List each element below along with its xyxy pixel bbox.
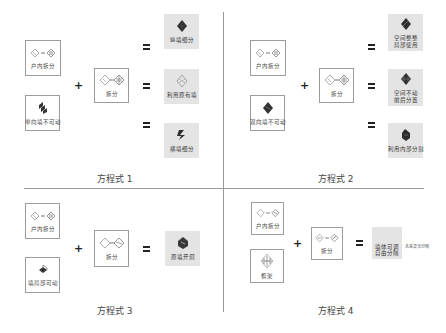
equals-operator (143, 122, 150, 128)
tile-label: 户内拆分 (256, 63, 280, 70)
equals-operator (368, 44, 375, 50)
equation-title: 方程式 4 (318, 304, 354, 317)
tile-label: 墙局部可动 (28, 280, 58, 287)
horizontal-divider (24, 188, 424, 189)
input-tile-unit-split: 户内拆分 (25, 40, 61, 76)
existing-wall-icon (176, 74, 188, 88)
cube-split-icon (314, 232, 340, 244)
tile-label: 利用内部分割 (388, 146, 424, 153)
cube-split-icon (29, 210, 57, 222)
plus-operator: + (74, 243, 83, 254)
input-tile-wall-constraint: 单向墙不可动 (25, 95, 60, 131)
plus-operator: + (293, 238, 302, 249)
tile-label: 空间整整 局部使用 (394, 35, 418, 48)
input-tile-unit-split: 户内拆分 (250, 40, 286, 76)
equals-operator (356, 240, 363, 246)
result-tile-internal-division: 利用内部分割 (388, 123, 423, 158)
tile-label: 纵墙细分 (170, 37, 194, 44)
result-tile-existing-wall: 利用原有墙 (164, 69, 199, 104)
middle-tile-split: 拆分 (311, 227, 343, 260)
cube-split-icon (255, 207, 281, 219)
tile-label: 拆分 (331, 91, 343, 98)
middle-tile-split: 拆分 (94, 68, 129, 103)
middle-tile-split: 拆分 (94, 230, 129, 267)
side-note: 未来灵活分隔 (405, 243, 429, 249)
cube-split-icon (29, 47, 57, 59)
input-tile-wall-constraint: 双向墙不可动 (250, 95, 285, 131)
input-tile-unit-split: 户内拆分 (25, 203, 60, 239)
space-icon (400, 72, 412, 86)
tile-label: 空间不动 前后分置 (394, 90, 418, 103)
equals-operator (368, 122, 375, 128)
space-icon (400, 128, 412, 142)
vertical-divider (223, 12, 224, 312)
input-tile-unit-split: 户内拆分 (251, 202, 284, 235)
result-tile-transverse: 横墙细分 (164, 123, 199, 158)
equation-title: 方程式 2 (318, 172, 354, 185)
tile-label: 拆分 (106, 91, 118, 98)
tile-label: 原墙开洞 (171, 254, 195, 261)
tile-label: 拆分 (321, 248, 333, 255)
tile-label: 户内拆分 (256, 223, 280, 230)
cube-split-icon (254, 47, 282, 59)
equals-operator (143, 44, 150, 50)
longitudinal-wall-icon (176, 19, 188, 33)
result-tile-longitudinal: 纵墙细分 (164, 14, 199, 49)
tile-label: 利用原有墙 (167, 92, 197, 99)
wall-fixed-icon (37, 101, 49, 115)
input-tile-wall-constraint: 墙局部可动 (25, 257, 60, 293)
wall-opening-icon (177, 236, 189, 250)
cube-split-icon (98, 236, 126, 250)
plus-operator: + (74, 80, 83, 91)
input-tile-frame: 框架 (250, 249, 284, 283)
space-icon (400, 17, 412, 31)
transverse-wall-icon (176, 128, 188, 142)
tile-label: 横墙细分 (170, 146, 194, 153)
cube-split-icon (98, 73, 126, 87)
equals-operator (368, 83, 375, 89)
result-tile-free-partition: 墙体可调 自由分隔 (372, 227, 402, 259)
tile-label: 框架 (261, 273, 273, 280)
result-tile-wall-opening: 原墙开洞 (165, 231, 200, 266)
equation-title: 方程式 1 (97, 172, 133, 185)
result-tile-space-local: 空间整整 局部使用 (388, 14, 423, 51)
tile-label: 双向墙不可动 (250, 119, 286, 126)
equals-operator (143, 83, 150, 89)
equals-operator (143, 246, 150, 252)
equation-title: 方程式 3 (97, 304, 133, 317)
wall-partial-icon (37, 264, 49, 276)
plus-operator: + (300, 80, 309, 91)
tile-label: 拆分 (106, 254, 118, 261)
frame-icon (260, 253, 274, 269)
wall-fixed-icon (262, 101, 274, 115)
result-tile-space-front-back: 空间不动 前后分置 (388, 69, 423, 106)
middle-tile-split: 拆分 (319, 68, 354, 103)
cube-split-icon (323, 73, 351, 87)
tile-label: 户内拆分 (31, 226, 55, 233)
tile-label: 墙体可调 自由分隔 (375, 244, 399, 257)
tile-label: 单向墙不可动 (25, 119, 61, 126)
tile-label: 户内拆分 (31, 63, 55, 70)
